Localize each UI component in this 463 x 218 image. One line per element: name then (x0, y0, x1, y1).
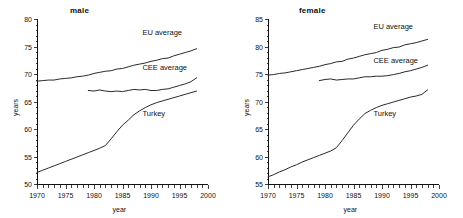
x-tick-label: 1985 (115, 192, 131, 199)
y-tick-label: 75 (24, 44, 32, 51)
y-tick-label: 60 (24, 126, 32, 133)
series-line-turkey (37, 91, 197, 172)
y-tick-label: 70 (255, 99, 263, 106)
series-label-turkey: Turkey (142, 109, 165, 118)
x-tick-label: 2000 (200, 192, 216, 199)
x-tick-label: 1990 (143, 192, 159, 199)
x-tick-label: 1975 (289, 192, 305, 199)
plot-area-female: 5560657075808519701975198019851990199520… (231, 0, 462, 218)
chart-panel-female: female years year 5560657075808519701975… (231, 0, 462, 218)
series-line-cee-average (88, 78, 196, 92)
series-label-cee-average: CEE average (373, 56, 418, 65)
series-line-cee-average (319, 65, 427, 80)
x-tick-label: 1970 (260, 192, 276, 199)
y-tick-label: 60 (255, 154, 263, 161)
x-tick-label: 1990 (374, 192, 390, 199)
y-tick-label: 65 (255, 126, 263, 133)
series-label-turkey: Turkey (373, 109, 396, 118)
series-line-turkey (268, 90, 428, 177)
x-tick-label: 2000 (431, 192, 447, 199)
x-tick-label: 1995 (172, 192, 188, 199)
series-label-eu-average: EU average (142, 28, 182, 37)
y-tick-label: 55 (255, 181, 263, 188)
x-tick-label: 1995 (403, 192, 419, 199)
chart-panel-male: male years year 505560657075801970197519… (0, 0, 231, 218)
y-tick-label: 75 (255, 71, 263, 78)
y-tick-label: 70 (24, 71, 32, 78)
x-tick-label: 1970 (29, 192, 45, 199)
series-label-cee-average: CEE average (142, 63, 187, 72)
x-tick-label: 1980 (86, 192, 102, 199)
y-tick-label: 80 (24, 16, 32, 23)
x-tick-label: 1980 (317, 192, 333, 199)
y-tick-label: 65 (24, 99, 32, 106)
y-tick-label: 50 (24, 181, 32, 188)
series-label-eu-average: EU average (373, 22, 413, 31)
y-tick-label: 55 (24, 154, 32, 161)
plot-area-male: 5055606570758019701975198019851990199520… (0, 0, 231, 218)
x-tick-label: 1985 (346, 192, 362, 199)
life-expectancy-figure: male years year 505560657075801970197519… (0, 0, 463, 218)
x-tick-label: 1975 (58, 192, 74, 199)
y-tick-label: 80 (255, 44, 263, 51)
y-tick-label: 85 (255, 16, 263, 23)
